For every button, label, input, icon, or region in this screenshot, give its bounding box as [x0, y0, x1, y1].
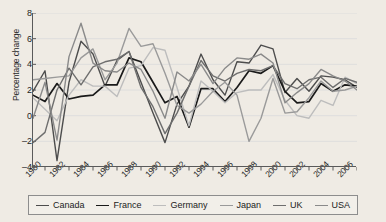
y-axis-tick-label: –2	[16, 137, 32, 146]
y-axis-tick-label: 0	[16, 111, 32, 120]
legend-item-canada[interactable]: Canada	[36, 200, 85, 210]
legend-line-swatch-icon	[273, 205, 286, 206]
legend-item-label: UK	[290, 200, 303, 210]
legend-line-swatch-icon	[36, 205, 49, 206]
plot-lines	[33, 13, 357, 173]
y-axis-tick-label: 8	[16, 9, 32, 18]
legend-line-swatch-icon	[220, 205, 233, 206]
legend-item-label: Germany	[170, 200, 207, 210]
legend-item-label: Japan	[237, 200, 262, 210]
legend-item-japan[interactable]: Japan	[220, 200, 262, 210]
legend-item-usa[interactable]: USA	[315, 200, 351, 210]
plot-area	[32, 13, 356, 167]
chart-figure: Percentage change –4–202468 198019821984…	[0, 0, 386, 222]
series-line-germany	[33, 48, 357, 126]
legend-line-swatch-icon	[96, 205, 109, 206]
legend-item-label: Canada	[53, 200, 85, 210]
legend-item-label: USA	[332, 200, 351, 210]
legend-line-swatch-icon	[315, 205, 328, 206]
y-axis-tick-label: 6	[16, 34, 32, 43]
legend-item-germany[interactable]: Germany	[153, 200, 207, 210]
legend-item-france[interactable]: France	[96, 200, 141, 210]
series-line-usa	[33, 23, 357, 140]
chart-legend: CanadaFranceGermanyJapanUKUSA	[28, 195, 358, 215]
legend-line-swatch-icon	[153, 205, 166, 206]
y-axis-tick-label: 4	[16, 60, 32, 69]
legend-item-uk[interactable]: UK	[273, 200, 303, 210]
y-axis-tick-labels: –4–202468	[15, 0, 32, 222]
legend-item-label: France	[113, 200, 141, 210]
y-axis-tick-label: 2	[16, 86, 32, 95]
